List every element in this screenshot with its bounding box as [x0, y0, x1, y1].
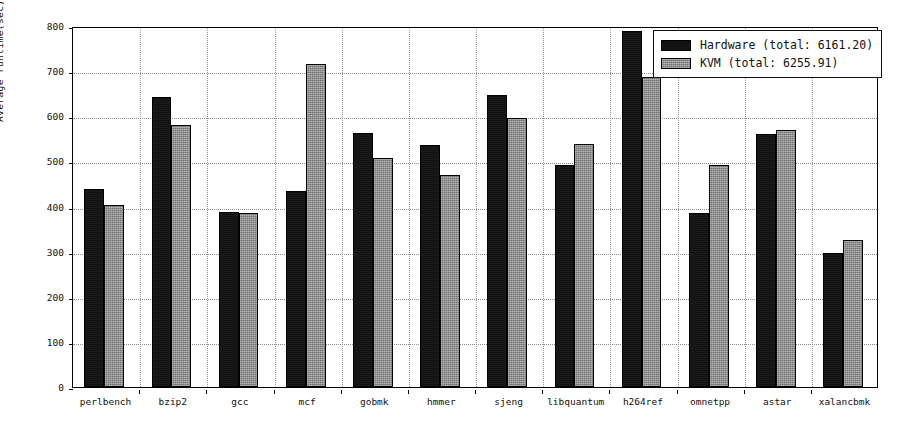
legend-entry-kvm: KVM (total: 6255.91)	[661, 54, 873, 72]
bar-xalancbmk-kvm	[843, 240, 863, 387]
y-tick-label: 600	[0, 112, 64, 122]
gridline-vertical	[342, 28, 343, 387]
bar-h264ref-hardware	[622, 31, 642, 387]
x-tick-label: astar	[763, 396, 792, 407]
legend-label-hardware: Hardware (total: 6161.20)	[700, 39, 873, 52]
x-tick-mark	[811, 390, 812, 394]
bar-libquantum-hardware	[555, 165, 575, 387]
x-tick-mark	[341, 390, 342, 394]
legend-label-kvm: KVM (total: 6255.91)	[700, 57, 838, 70]
x-tick-mark	[206, 390, 207, 394]
gridline-vertical	[140, 28, 141, 387]
bar-gobmk-hardware	[353, 133, 373, 387]
bar-bzip2-hardware	[152, 97, 172, 387]
x-tick-mark	[408, 390, 409, 394]
bar-gobmk-kvm	[373, 158, 393, 387]
gridline-vertical	[207, 28, 208, 387]
x-tick-label: perlbench	[80, 396, 131, 407]
gridline-vertical	[745, 28, 746, 387]
x-tick-label: hmmer	[427, 396, 456, 407]
y-tick-label: 800	[0, 22, 64, 32]
x-tick-label: xalancbmk	[819, 396, 870, 407]
gridline-vertical	[610, 28, 611, 387]
y-tick-label: 400	[0, 203, 64, 213]
x-tick-label: gobmk	[360, 396, 389, 407]
legend: Hardware (total: 6161.20) KVM (total: 62…	[653, 30, 882, 78]
bar-sjeng-hardware	[487, 95, 507, 387]
legend-swatch-kvm	[661, 58, 691, 69]
bar-hmmer-kvm	[440, 175, 460, 387]
x-tick-label: sjeng	[494, 396, 523, 407]
x-tick-mark	[744, 390, 745, 394]
x-tick-label: omnetpp	[690, 396, 730, 407]
y-tick-label: 100	[0, 338, 64, 348]
x-tick-mark	[139, 390, 140, 394]
gridline-vertical	[409, 28, 410, 387]
gridline-horizontal	[73, 118, 877, 119]
gridline-vertical	[275, 28, 276, 387]
bar-gcc-hardware	[219, 212, 239, 387]
x-tick-mark	[677, 390, 678, 394]
y-tick-label: 200	[0, 293, 64, 303]
y-axis-ticks: 0100200300400500600700800	[0, 0, 72, 437]
bar-mcf-hardware	[286, 191, 306, 387]
x-tick-label: h264ref	[623, 396, 663, 407]
legend-swatch-hardware	[661, 40, 691, 51]
bar-omnetpp-kvm	[709, 165, 729, 387]
y-tick-label: 700	[0, 67, 64, 77]
bar-astar-kvm	[776, 130, 796, 387]
bar-libquantum-kvm	[574, 144, 594, 387]
bar-mcf-kvm	[306, 64, 326, 387]
bar-gcc-kvm	[239, 213, 259, 387]
y-tick-label: 0	[0, 383, 64, 393]
bar-bzip2-kvm	[171, 125, 191, 387]
y-tick-label: 300	[0, 248, 64, 258]
bar-hmmer-hardware	[420, 145, 440, 387]
x-tick-label: libquantum	[547, 396, 604, 407]
legend-entry-hardware: Hardware (total: 6161.20)	[661, 36, 873, 54]
x-tick-label: mcf	[298, 396, 315, 407]
plot-area	[72, 27, 878, 388]
x-tick-mark	[609, 390, 610, 394]
bar-omnetpp-hardware	[689, 213, 709, 387]
x-tick-mark	[542, 390, 543, 394]
gridline-vertical	[812, 28, 813, 387]
x-tick-mark	[274, 390, 275, 394]
x-tick-label: gcc	[231, 396, 248, 407]
x-axis-ticks: perlbenchbzip2gccmcfgobmkhmmersjenglibqu…	[72, 390, 878, 430]
bar-astar-hardware	[756, 134, 776, 387]
x-tick-label: bzip2	[158, 396, 187, 407]
gridline-vertical	[543, 28, 544, 387]
bar-perlbench-hardware	[84, 189, 104, 387]
gridline-vertical	[678, 28, 679, 387]
gridline-vertical	[476, 28, 477, 387]
bar-xalancbmk-hardware	[823, 253, 843, 387]
bar-chart-figure: Average runtime(sec) 0100200300400500600…	[0, 0, 920, 437]
y-tick-label: 500	[0, 157, 64, 167]
bar-h264ref-kvm	[642, 77, 662, 387]
bar-perlbench-kvm	[104, 205, 124, 387]
bar-sjeng-kvm	[507, 118, 527, 387]
x-tick-mark	[475, 390, 476, 394]
